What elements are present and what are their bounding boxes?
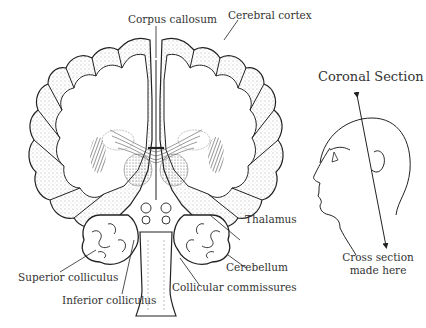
right-thalamus <box>160 154 188 186</box>
left-thalamus <box>124 154 152 186</box>
label-collicular-commissures: Collicular commissures <box>172 282 297 293</box>
label-inferior-colliculus: Inferior colliculus <box>62 295 157 306</box>
head-profile <box>314 118 411 255</box>
right-striatum <box>208 137 224 173</box>
label-cross-section: Cross section made here <box>338 252 418 275</box>
right-hemisphere <box>160 38 283 227</box>
label-cross-section-line1: Cross section <box>338 252 418 263</box>
right-cerebellum <box>174 215 230 264</box>
label-cerebellum: Cerebellum <box>226 262 288 273</box>
diagram-title: Coronal Section <box>318 70 424 83</box>
label-thalamus: Thalamus <box>245 214 297 225</box>
label-corpus-callosum: Corpus callosum <box>128 14 217 25</box>
left-striatum <box>90 137 106 173</box>
label-cerebral-cortex: Cerebral cortex <box>228 10 312 21</box>
left-hemisphere <box>29 38 152 227</box>
label-cross-section-line2: made here <box>338 265 418 276</box>
label-superior-colliculus: Superior colliculus <box>18 272 118 283</box>
